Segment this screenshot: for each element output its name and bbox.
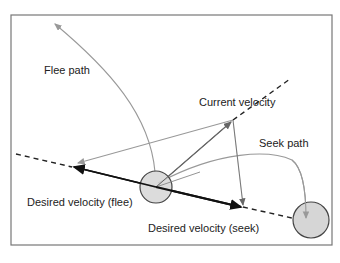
diagram-frame	[11, 15, 332, 245]
steering-diagram: Flee path Current velocity Seek path Des…	[0, 0, 340, 263]
flee-path-curve	[55, 24, 155, 172]
steering-flee-vector	[78, 120, 233, 163]
steering-seek-vector	[233, 120, 243, 205]
label-flee-path: Flee path	[44, 64, 90, 76]
label-desired-velocity-seek: Desired velocity (seek)	[148, 222, 259, 234]
label-current-velocity: Current velocity	[199, 96, 276, 108]
dashed-guide-flee	[16, 154, 72, 167]
seek-path-curve	[158, 154, 306, 218]
dashed-guide-seek	[243, 207, 292, 218]
target-circle	[293, 202, 329, 238]
label-desired-velocity-flee: Desired velocity (flee)	[27, 196, 133, 208]
label-seek-path: Seek path	[259, 137, 309, 149]
